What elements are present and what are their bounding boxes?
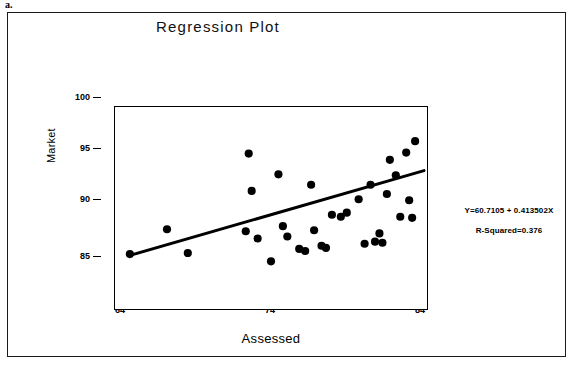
scatter-point [343,209,351,217]
scatter-point [163,225,171,233]
scatter-point [274,170,282,178]
scatter-point [355,195,363,203]
scatter-point [283,232,291,240]
y-tick-mark-95 [93,148,101,149]
scatter-point [310,226,318,234]
scatter-point [402,149,410,157]
y-tick-mark-100 [93,97,101,98]
scatter-point [307,181,315,189]
y-tick-label-95: 95 [56,144,90,153]
scatter-plot-svg [115,107,427,309]
scatter-point [254,234,262,242]
scatter-point [375,229,383,237]
y-tick-label-85: 85 [56,252,90,261]
scatter-point [267,257,275,265]
regression-equation-text: Y=60.7105 + 0.413502X [448,206,570,215]
figure-frame: Regression Plot Market 100 95 90 85 64 7… [7,12,566,357]
x-axis-title: Assessed [114,331,428,346]
chart-title: Regression Plot [8,18,428,35]
scatter-point [184,249,192,257]
scatter-point [386,156,394,164]
scatter-point [408,214,416,222]
scatter-point [301,247,309,255]
scatter-points-group [126,137,419,265]
page-label: a. [5,0,13,11]
y-tick-label-100: 100 [56,93,90,102]
scatter-point [248,187,256,195]
scatter-point [405,196,413,204]
regression-annotation: Y=60.7105 + 0.413502X R-Squared=0.376 [448,206,570,235]
scatter-point [378,239,386,247]
scatter-point [242,227,250,235]
scatter-point [279,222,287,230]
scatter-point [411,137,419,145]
scatter-point [366,181,374,189]
scatter-point [328,211,336,219]
scatter-point [396,213,404,221]
r-squared-text: R-Squared=0.376 [448,226,570,235]
y-tick-mark-90 [93,199,101,200]
plot-area [114,106,428,310]
scatter-point [383,190,391,198]
scatter-point [392,171,400,179]
y-tick-mark-85 [93,256,101,257]
scatter-point [126,250,134,258]
y-tick-label-90: 90 [56,195,90,204]
scatter-point [371,238,379,246]
scatter-point [245,150,253,158]
scatter-point [322,244,330,252]
scatter-point [361,240,369,248]
